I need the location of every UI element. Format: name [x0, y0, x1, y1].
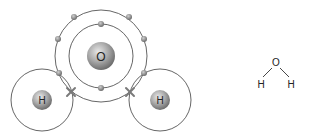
electron: [55, 36, 61, 42]
formula-bond-left: [263, 68, 272, 77]
hydrogen-left-label: H: [38, 95, 45, 106]
electron: [98, 21, 104, 27]
water-bonding-diagram: O H H O H H: [0, 0, 309, 137]
electron: [141, 36, 147, 42]
structural-formula: O H H: [257, 57, 294, 90]
oxygen-label: O: [96, 50, 105, 64]
electron: [141, 70, 147, 76]
electron: [56, 70, 62, 76]
formula-bond-right: [280, 68, 289, 77]
hydrogen-right-label: H: [156, 95, 163, 106]
formula-hydrogen-right: H: [287, 79, 294, 90]
electron: [98, 85, 104, 91]
formula-oxygen: O: [272, 57, 280, 68]
electron: [126, 14, 132, 20]
formula-hydrogen-left: H: [257, 79, 264, 90]
electron: [71, 14, 77, 20]
cross-electron-right: [126, 88, 134, 96]
